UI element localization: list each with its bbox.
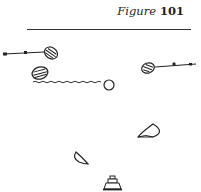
end-marker-icon <box>189 63 192 66</box>
right-cup-marker-icon <box>138 124 160 137</box>
start-marker-icon <box>3 53 7 56</box>
wavy-path <box>33 81 101 83</box>
diagram <box>0 0 201 192</box>
left-lower-ball-icon <box>31 65 50 81</box>
right-ball-with-trajectory <box>140 61 196 75</box>
ball-icon <box>140 61 156 75</box>
left-cup-marker-icon <box>75 152 88 164</box>
bottom-post-marker-icon <box>103 176 122 190</box>
left-ball-with-trajectory <box>3 44 60 61</box>
mid-marker-icon <box>24 51 27 54</box>
target-circle-icon <box>104 80 114 90</box>
ball-icon <box>42 44 60 61</box>
